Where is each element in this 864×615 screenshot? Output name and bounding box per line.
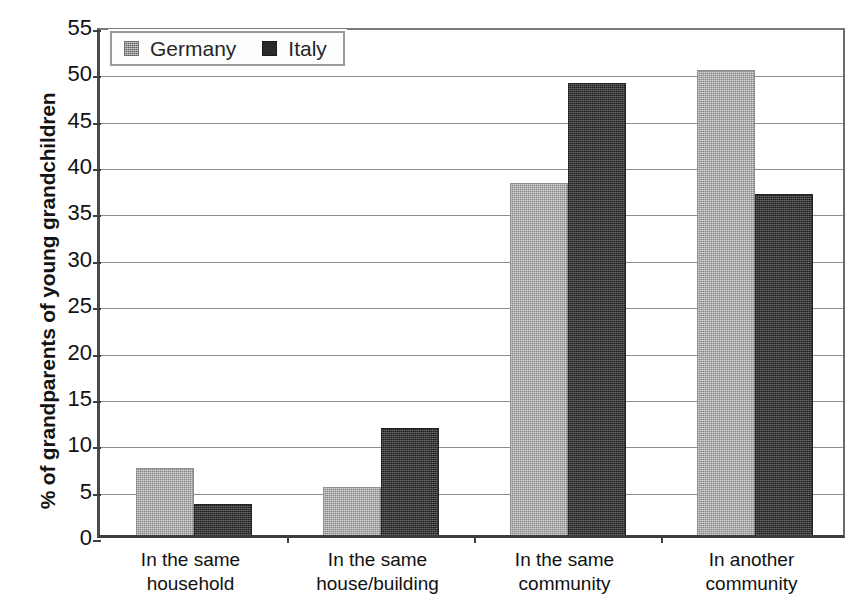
bar-italy-3: [568, 83, 626, 536]
x-tick-label-line: house/building: [284, 572, 471, 596]
legend-entry-germany: Germany: [124, 38, 236, 59]
y-tick-label: 0: [80, 527, 92, 549]
x-tick-mark: [287, 535, 289, 543]
x-tick-label-line: In another: [658, 548, 845, 572]
plot-area: [97, 28, 845, 538]
y-tick-label: 55: [68, 17, 92, 39]
y-tick-label: 40: [68, 156, 92, 178]
bar-germany-4: [697, 70, 755, 535]
x-tick-label-line: community: [471, 572, 658, 596]
x-tick-label-line: In the same: [97, 548, 284, 572]
x-tick-label-line: In the same: [471, 548, 658, 572]
legend-entry-italy: Italy: [262, 38, 327, 59]
bar-germany-2: [323, 487, 381, 535]
y-tick-label: 10: [68, 434, 92, 456]
x-tick-label-4: In anothercommunity: [658, 548, 845, 597]
x-tick-mark: [661, 535, 663, 543]
bar-germany-1: [136, 468, 194, 535]
x-tick-label-line: household: [97, 572, 284, 596]
bars-layer: [100, 30, 843, 535]
legend-label: Italy: [288, 38, 327, 59]
x-tick-label-line: In the same: [284, 548, 471, 572]
x-tick-label-1: In the samehousehold: [97, 548, 284, 597]
y-tick-label: 30: [68, 249, 92, 271]
y-tick-label: 50: [68, 63, 92, 85]
bar-italy-2: [381, 428, 439, 535]
x-axis-tick-labels: In the samehouseholdIn the samehouse/bui…: [97, 548, 845, 610]
bar-italy-4: [755, 194, 813, 535]
bar-chart: % of grandparents of young grandchildren…: [0, 0, 864, 615]
x-tick-mark: [474, 535, 476, 543]
y-tick-label: 25: [68, 295, 92, 317]
x-tick-label-2: In the samehouse/building: [284, 548, 471, 597]
y-tick-label: 35: [68, 202, 92, 224]
y-tick-mark: [93, 540, 101, 542]
chart-legend: GermanyItaly: [110, 31, 345, 66]
x-tick-label-line: community: [658, 572, 845, 596]
y-tick-label: 5: [80, 481, 92, 503]
y-tick-label: 45: [68, 110, 92, 132]
y-tick-label: 15: [68, 388, 92, 410]
germany-swatch-icon: [124, 41, 139, 56]
x-tick-label-3: In the samecommunity: [471, 548, 658, 597]
y-tick-label: 20: [68, 342, 92, 364]
bar-italy-1: [194, 504, 252, 535]
legend-label: Germany: [150, 38, 236, 59]
italy-swatch-icon: [262, 41, 277, 56]
bar-germany-3: [510, 183, 568, 535]
y-axis-tick-labels: 0510152025303540455055: [44, 0, 92, 615]
